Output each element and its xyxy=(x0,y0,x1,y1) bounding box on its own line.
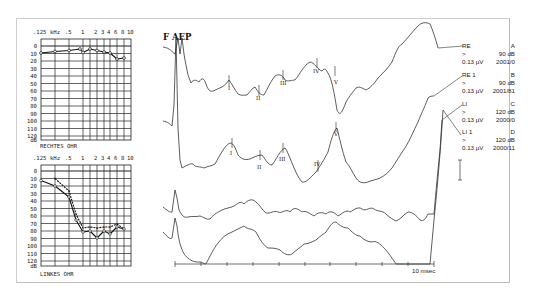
time-axis xyxy=(175,261,434,267)
legend-level: 120 dB xyxy=(495,108,515,115)
db-label: 50 xyxy=(30,206,37,212)
db-label: 0 xyxy=(34,43,37,49)
legend-re: RE A > 90 dB 0.13 µV 2001/0 xyxy=(462,42,516,65)
freq-label: 2 xyxy=(94,155,97,161)
db-label: 90 xyxy=(30,236,37,242)
freq-label: 4 xyxy=(107,155,111,161)
amplitude-scale-bar xyxy=(458,160,462,180)
db-label: 100 xyxy=(27,243,37,249)
freq-label: kHz xyxy=(50,155,60,161)
freq-label: .5 xyxy=(65,29,72,35)
db-label: 110 xyxy=(27,126,37,132)
legend-level: 120 dB xyxy=(495,136,515,143)
peak-label: III xyxy=(279,156,286,162)
freq-label: 8 xyxy=(121,155,125,161)
legend-name: LI 1 xyxy=(462,128,473,135)
peak-label: I xyxy=(228,85,230,91)
freq-label: 1 xyxy=(81,155,84,161)
db-label: 30 xyxy=(30,66,37,72)
db-label: 50 xyxy=(30,81,37,87)
peak-labels-re: I II III IV V xyxy=(228,68,339,101)
aep-panel: F AEP I II III IV V xyxy=(163,23,516,274)
aep-trace-re xyxy=(163,23,438,114)
peak-labels-re1: I II III IV V xyxy=(230,131,339,170)
svg-text:×: × xyxy=(68,188,71,194)
legend-re1: RE 1 B > 90 dB 0.13 µV 2001/81 xyxy=(462,71,516,94)
audiogram-curves-left: ××× ××× ×× xyxy=(40,175,126,239)
freq-label: 3 xyxy=(101,155,104,161)
audiogram-right: .125 kHz .5 1 2 3 4 6 8 10 0 10 20 30 40… xyxy=(27,29,134,149)
db-label: 70 xyxy=(30,96,37,102)
freq-label: 10 xyxy=(127,155,134,161)
freq-label: .125 xyxy=(33,29,46,35)
peak-label: III xyxy=(280,80,287,86)
freq-label: 3 xyxy=(101,29,104,35)
svg-text:×: × xyxy=(103,224,106,230)
svg-text:×: × xyxy=(116,221,119,227)
audiogram-caption-left: LINKES OHR xyxy=(40,271,74,277)
freq-label: 4 xyxy=(107,29,111,35)
freq-label: 8 xyxy=(121,29,125,35)
legend-li: LI C > 120 dB 0.13 µV 2000/0 xyxy=(462,100,516,123)
db-label: 40 xyxy=(30,73,37,79)
svg-text:×: × xyxy=(54,175,57,181)
legend-name: RE 1 xyxy=(462,71,476,78)
svg-text:×: × xyxy=(89,224,92,230)
legend-li1: LI 1 D > 120 dB 0.13 µV 2000/11 xyxy=(462,128,516,151)
db-label: 0 xyxy=(34,168,37,174)
legend-level: 90 dB xyxy=(499,79,515,86)
legend-name: LI xyxy=(462,100,467,107)
legend-scale: 0.13 µV xyxy=(462,58,484,65)
peak-label: II xyxy=(257,164,261,170)
legend-scale: 0.13 µV xyxy=(462,116,484,123)
freq-label: 6 xyxy=(114,29,117,35)
legend-name: RE xyxy=(462,42,471,49)
legend-marker: > xyxy=(462,50,466,57)
db-label: 40 xyxy=(30,198,37,204)
db-label: 70 xyxy=(30,221,37,227)
report-canvas: .125 kHz .5 1 2 3 4 6 8 10 0 10 20 30 40… xyxy=(0,0,539,293)
db-label: 90 xyxy=(30,111,37,117)
freq-label: .5 xyxy=(65,155,72,161)
legend-leaders xyxy=(434,46,463,135)
freq-label: kHz xyxy=(50,29,60,35)
svg-text:×: × xyxy=(96,225,99,231)
legend-code: A xyxy=(511,42,516,49)
legend-marker: > xyxy=(462,136,466,143)
peak-markers-re xyxy=(229,58,335,96)
peak-label: IV xyxy=(314,161,321,167)
aep-trace-li xyxy=(163,120,442,221)
legend-level: 90 dB xyxy=(499,50,515,57)
legend-marker: > xyxy=(462,79,466,86)
freq-label: 2 xyxy=(94,29,97,35)
peak-label: I xyxy=(230,150,232,156)
db-label: 60 xyxy=(30,213,37,219)
audiogram-left: .125 kHz .5 1 2 3 4 6 8 10 0 10 20 30 40… xyxy=(27,155,134,277)
freq-labels-right: .125 kHz .5 1 2 3 4 6 8 10 xyxy=(33,29,134,35)
freq-label: 10 xyxy=(127,29,134,35)
legend-code: D xyxy=(511,128,516,135)
legend-sweeps: 2000/11 xyxy=(493,144,515,151)
audiogram-curve-right xyxy=(40,48,126,61)
legend-sweeps: 2001/81 xyxy=(493,87,516,94)
svg-text:×: × xyxy=(75,211,78,217)
svg-text:×: × xyxy=(109,224,112,230)
legend-code: C xyxy=(511,100,516,107)
db-label: 100 xyxy=(27,118,37,124)
db-label: 110 xyxy=(27,251,37,257)
peak-label: IV xyxy=(313,68,320,74)
legend-scale: 0.13 µV xyxy=(462,87,484,94)
legend-sweeps: 2000/0 xyxy=(496,116,515,123)
peak-label: V xyxy=(333,79,339,85)
db-label: 10 xyxy=(30,51,37,57)
freq-labels-left: .125 kHz .5 1 2 3 4 6 8 10 xyxy=(33,155,134,161)
time-axis-label: 10 msec xyxy=(412,267,435,274)
db-label: 80 xyxy=(30,228,37,234)
db-label: 20 xyxy=(30,183,37,189)
audiogram-caption-right: RECHTES OHR xyxy=(40,143,78,149)
freq-label: 1 xyxy=(81,29,84,35)
db-labels-left: 0 10 20 30 40 50 60 70 80 90 100 110 120… xyxy=(27,168,38,269)
db-label: 10 xyxy=(30,176,37,182)
db-labels-right: 0 10 20 30 40 50 60 70 80 90 100 110 120… xyxy=(27,43,38,143)
legend-marker: > xyxy=(462,108,466,115)
